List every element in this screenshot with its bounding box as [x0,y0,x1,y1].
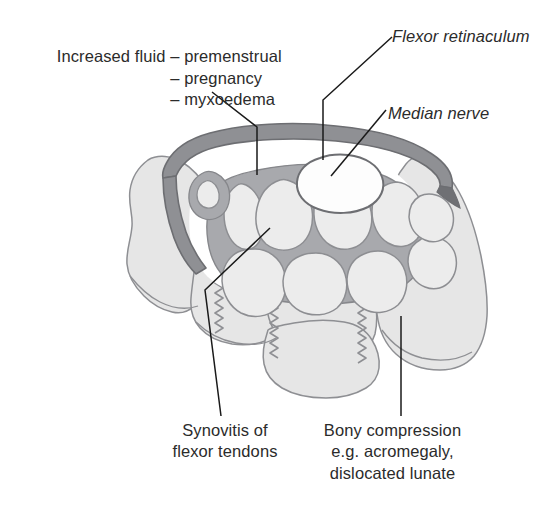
carpal-bone-bottom-mid [263,320,379,398]
figure-canvas: Increased fluid – premenstrual – pregnan… [0,0,558,505]
tendon-7 [347,251,407,312]
tendon-small-group [189,171,230,219]
tendon-6 [283,253,347,315]
label-synovitis: Synovitis of flexor tendons [150,420,300,463]
label-increased-fluid-items: – premenstrual – pregnancy – myxoedema [170,46,281,110]
label-flexor-retinaculum: Flexor retinaculum [392,26,530,47]
tendon-8 [408,237,456,289]
label-bony-compression: Bony compression e.g. acromegaly, disloc… [300,420,485,484]
label-median-nerve: Median nerve [388,103,489,124]
label-increased-fluid-head: Increased fluid [57,46,166,67]
tendon-5 [222,249,286,316]
label-increased-fluid: Increased fluid – premenstrual – pregnan… [38,25,282,132]
median-nerve [297,155,383,213]
tendon-small-inner [197,181,219,209]
